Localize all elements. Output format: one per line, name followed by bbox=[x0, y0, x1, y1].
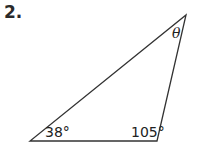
angle-label-bottom-right: 105° bbox=[131, 124, 165, 140]
triangle bbox=[30, 15, 186, 141]
angle-label-bottom-left: 38° bbox=[45, 124, 70, 140]
angle-label-top: θ bbox=[172, 25, 180, 41]
triangle-diagram bbox=[0, 0, 197, 156]
